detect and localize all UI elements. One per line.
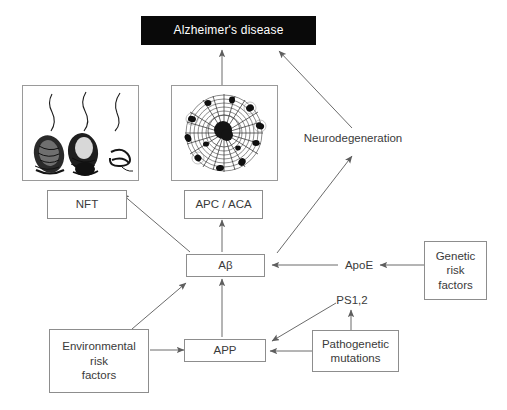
node-app-label: APP	[213, 343, 236, 357]
node-genetic-risk-factors: Genetic risk factors	[424, 241, 487, 300]
node-pathogenetic-mutations: Pathogenetic mutations	[312, 330, 399, 372]
node-ps12-label: PS1,2	[336, 293, 367, 307]
node-pathogenetic-mutations-label: Pathogenetic mutations	[322, 337, 389, 366]
node-environmental-risk-factors-label: Environmental risk factors	[62, 339, 136, 382]
node-apc-aca-label: APC / ACA	[195, 197, 251, 211]
node-abeta: Aβ	[186, 254, 265, 277]
node-environmental-risk-factors: Environmental risk factors	[49, 329, 149, 393]
node-nft: NFT	[47, 190, 127, 219]
node-genetic-risk-factors-label: Genetic risk factors	[436, 249, 476, 292]
arrow-neurodegeneration-to-alzheimers	[279, 51, 352, 128]
node-nft-label: NFT	[76, 197, 98, 211]
node-app: APP	[184, 339, 266, 362]
node-neurodegeneration: Neurodegeneration	[298, 129, 408, 147]
arrow-environmental-risk-to-abeta	[132, 283, 186, 329]
node-apoe: ApoE	[338, 256, 380, 274]
panel-nft-image	[22, 85, 139, 181]
arrow-abeta-to-neurodegeneration	[277, 156, 352, 253]
arrow-abeta-to-nft	[122, 194, 190, 252]
node-apoe-label: ApoE	[345, 258, 373, 272]
node-alzheimers-disease-label: Alzheimer's disease	[173, 23, 283, 38]
node-apc-aca: APC / ACA	[184, 190, 263, 219]
node-neurodegeneration-label: Neurodegeneration	[304, 131, 402, 145]
panel-plaque-image	[171, 85, 278, 181]
node-alzheimers-disease: Alzheimer's disease	[141, 16, 316, 45]
neurofibrillary-tangle-micrograph	[23, 86, 138, 180]
amyloid-plaque-micrograph	[172, 86, 277, 180]
alzheimer-pathogenesis-diagram: Alzheimer's disease	[0, 0, 507, 410]
node-ps12: PS1,2	[331, 292, 373, 309]
node-abeta-label: Aβ	[218, 258, 232, 272]
